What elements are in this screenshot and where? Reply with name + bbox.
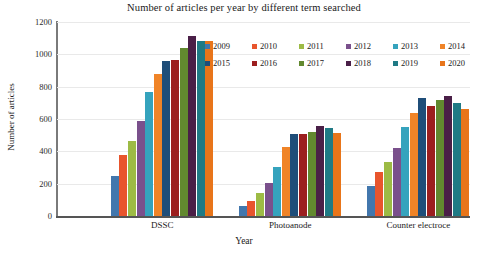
- x-axis-line: [56, 216, 470, 218]
- legend-swatch-icon: [440, 61, 445, 66]
- legend-item-2015[interactable]: 2015: [205, 59, 252, 68]
- bar-group: [111, 22, 214, 216]
- legend-label: 2017: [307, 59, 324, 68]
- bar[interactable]: [461, 109, 469, 216]
- legend-label: 2019: [401, 59, 418, 68]
- bar[interactable]: [410, 113, 418, 216]
- legend-row: 201520162017201820192020: [205, 55, 483, 72]
- bar[interactable]: [401, 127, 409, 216]
- bar[interactable]: [299, 134, 307, 216]
- x-axis-category-label: Counter electroce: [387, 220, 451, 230]
- bar[interactable]: [162, 61, 170, 216]
- y-axis-tick-label: 200: [6, 179, 52, 189]
- y-axis-title: Number of articles: [6, 62, 16, 172]
- legend-label: 2016: [260, 59, 277, 68]
- bar[interactable]: [171, 60, 179, 216]
- bar[interactable]: [239, 206, 247, 217]
- legend-swatch-icon: [393, 44, 398, 49]
- bar[interactable]: [375, 172, 383, 216]
- legend-item-2010[interactable]: 2010: [252, 42, 299, 51]
- legend-swatch-icon: [252, 44, 257, 49]
- legend-swatch-icon: [205, 44, 210, 49]
- legend-item-2020[interactable]: 2020: [440, 59, 487, 68]
- legend-swatch-icon: [299, 44, 304, 49]
- legend-label: 2010: [260, 42, 277, 51]
- legend-item-2016[interactable]: 2016: [252, 59, 299, 68]
- legend-item-2012[interactable]: 2012: [346, 42, 393, 51]
- bar[interactable]: [180, 48, 188, 216]
- bar[interactable]: [128, 141, 136, 216]
- legend-swatch-icon: [393, 61, 398, 66]
- legend-swatch-icon: [346, 44, 351, 49]
- bar[interactable]: [316, 126, 324, 216]
- legend-label: 2011: [307, 42, 324, 51]
- bar[interactable]: [154, 74, 162, 216]
- legend-swatch-icon: [299, 61, 304, 66]
- legend-item-2013[interactable]: 2013: [393, 42, 440, 51]
- bar[interactable]: [444, 96, 452, 216]
- y-axis-tick-label: 1200: [6, 17, 52, 27]
- bar[interactable]: [418, 98, 426, 216]
- bar[interactable]: [436, 100, 444, 216]
- bar[interactable]: [197, 41, 205, 216]
- bar[interactable]: [325, 128, 333, 216]
- bar[interactable]: [393, 148, 401, 216]
- legend-label: 2012: [354, 42, 371, 51]
- legend-swatch-icon: [440, 44, 445, 49]
- bar[interactable]: [273, 167, 281, 216]
- bar[interactable]: [290, 134, 298, 216]
- legend-swatch-icon: [205, 61, 210, 66]
- chart-container: Number of articles per year by different…: [0, 0, 488, 260]
- legend-swatch-icon: [252, 61, 257, 66]
- bar[interactable]: [137, 121, 145, 216]
- legend-label: 2014: [448, 42, 465, 51]
- y-axis-tick-label: 0: [6, 211, 52, 221]
- bar[interactable]: [145, 92, 153, 216]
- bar[interactable]: [256, 193, 264, 216]
- bar[interactable]: [333, 133, 341, 216]
- y-axis-tick-label: 1000: [6, 49, 52, 59]
- bar[interactable]: [308, 132, 316, 216]
- legend-item-2014[interactable]: 2014: [440, 42, 487, 51]
- legend-item-2011[interactable]: 2011: [299, 42, 346, 51]
- bar[interactable]: [188, 36, 196, 216]
- chart-legend: 2009201020112012201320142015201620172018…: [205, 38, 483, 72]
- legend-item-2019[interactable]: 2019: [393, 59, 440, 68]
- x-axis-category-label: DSSC: [151, 220, 174, 230]
- bar[interactable]: [453, 103, 461, 216]
- legend-item-2018[interactable]: 2018: [346, 59, 393, 68]
- legend-label: 2009: [213, 42, 230, 51]
- legend-label: 2015: [213, 59, 230, 68]
- bar[interactable]: [265, 183, 273, 216]
- bar[interactable]: [282, 147, 290, 216]
- legend-item-2009[interactable]: 2009: [205, 42, 252, 51]
- legend-label: 2020: [448, 59, 465, 68]
- x-axis-title: Year: [0, 236, 488, 246]
- chart-title: Number of articles per year by different…: [0, 2, 488, 13]
- legend-row: 200920102011201220132014: [205, 38, 483, 55]
- legend-label: 2018: [354, 59, 371, 68]
- bar[interactable]: [427, 106, 435, 216]
- legend-swatch-icon: [346, 61, 351, 66]
- bar[interactable]: [384, 162, 392, 216]
- legend-item-2017[interactable]: 2017: [299, 59, 346, 68]
- x-axis-category-label: Photoanode: [269, 220, 312, 230]
- bar[interactable]: [247, 201, 255, 216]
- legend-label: 2013: [401, 42, 418, 51]
- bar[interactable]: [111, 176, 119, 216]
- bar[interactable]: [119, 155, 127, 216]
- bar[interactable]: [367, 186, 375, 216]
